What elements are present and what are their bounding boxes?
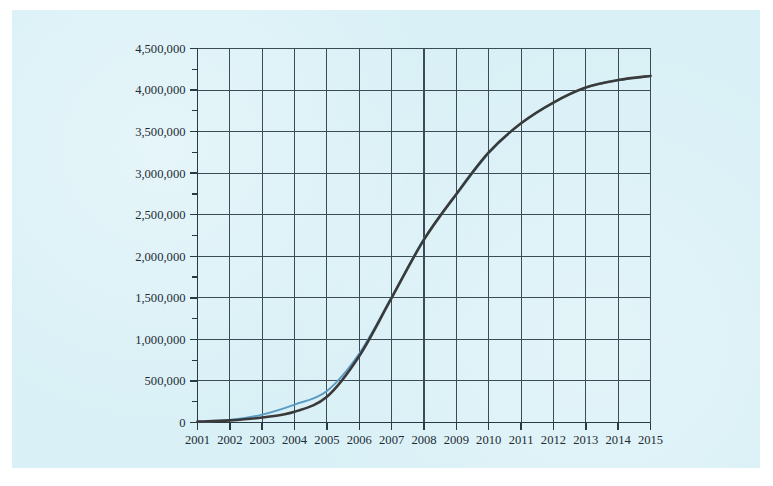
y-axis-tick-label: 4,500,000 [135, 42, 185, 56]
y-axis-tick-label: 2,000,000 [135, 250, 185, 264]
y-axis-tick-label: 1,500,000 [135, 291, 185, 305]
x-axis-tick-label: 2007 [379, 433, 404, 447]
chart-figure: 0500,0001,000,0001,500,0002,000,0002,500… [0, 0, 773, 486]
y-axis-tick-labels: 0500,0001,000,0001,500,0002,000,0002,500… [135, 42, 185, 430]
x-axis-tick-label: 2015 [638, 433, 663, 447]
x-axis-tick-label: 2009 [444, 433, 469, 447]
y-axis-tick-label: 0 [179, 416, 185, 430]
x-axis-tick-labels: 2001200220032004200520062007200820092010… [185, 433, 663, 447]
grid-layer [198, 49, 651, 423]
x-axis-tick-label: 2002 [217, 433, 242, 447]
line-chart-svg: 0500,0001,000,0001,500,0002,000,0002,500… [0, 0, 773, 486]
y-axis-tick-label: 500,000 [145, 374, 186, 388]
x-axis-tick-label: 2014 [606, 433, 632, 447]
y-axis-tick-label: 3,500,000 [135, 125, 185, 139]
y-axis-tick-label: 2,500,000 [135, 208, 185, 222]
y-axis-tick-label: 3,000,000 [135, 167, 185, 181]
x-axis-tick-label: 2003 [250, 433, 275, 447]
x-axis-tick-label: 2006 [347, 433, 372, 447]
axis-tick-marks [190, 49, 651, 430]
y-axis-tick-label: 4,000,000 [135, 83, 185, 97]
x-axis-tick-label: 2005 [314, 433, 339, 447]
x-axis-tick-label: 2004 [282, 433, 308, 447]
x-axis-tick-label: 2010 [476, 433, 501, 447]
y-axis-tick-label: 1,000,000 [135, 333, 185, 347]
x-axis-tick-label: 2008 [411, 433, 436, 447]
x-axis-tick-label: 2012 [541, 433, 566, 447]
x-axis-tick-label: 2011 [509, 433, 534, 447]
x-axis-tick-label: 2001 [185, 433, 210, 447]
x-axis-tick-label: 2013 [573, 433, 598, 447]
chart-page: 0500,0001,000,0001,500,0002,000,0002,500… [0, 0, 773, 486]
